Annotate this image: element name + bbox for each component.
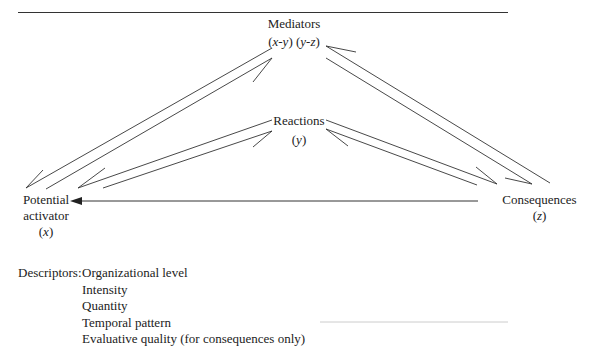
arrow-activator-to-reactions [103,131,272,188]
consequences-subscript: (z) [492,208,587,224]
reactions-title: Reactions [259,113,339,128]
descriptor-item: Temporal pattern [82,315,305,332]
descriptor-item: Organizational level [82,265,305,282]
descriptors-label: Descriptors: [18,265,82,281]
mediators-title: Mediators [244,16,344,31]
arrow-consequences-to-activator [70,197,478,205]
node-consequences: Consequences (z) [492,192,587,224]
descriptor-item: Quantity [82,298,305,315]
reactions-subscript: (y) [259,132,339,147]
activator-subscript: (x) [18,224,74,240]
arrow-mediators-to-consequences [326,58,532,184]
node-mediators: Mediators (x-y) (y-z) [244,16,344,49]
arrow-consequences-to-mediators [326,46,550,183]
arrow-mediators-to-activator [26,48,272,188]
node-potential-activator: Potential activator (x) [18,192,74,240]
activator-line2: activator [18,208,74,224]
consequences-title: Consequences [492,192,587,208]
mediators-subscript: (x-y) (y-z) [244,34,344,49]
node-reactions: Reactions (y) [259,113,339,147]
descriptors-list: Organizational level Intensity Quantity … [82,265,305,348]
activator-line1: Potential [18,192,74,208]
arrow-consequences-to-reactions [326,129,477,185]
descriptor-item: Intensity [82,282,305,299]
descriptor-item: Evaluative quality (for consequences onl… [82,331,305,348]
arrow-reactions-to-consequences [326,120,497,184]
